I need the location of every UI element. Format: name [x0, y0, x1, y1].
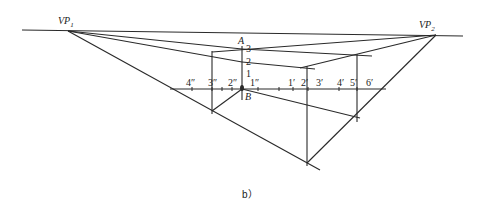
- tick-4pp: 4″: [186, 78, 195, 88]
- vp1-line-long: [68, 31, 320, 170]
- tick-4p: 4′: [337, 78, 344, 88]
- tick-6p: 6′: [366, 78, 373, 88]
- figure-caption: b）: [242, 186, 258, 201]
- perspective-drawing: [0, 0, 481, 205]
- tick-1pp: 1″: [250, 78, 259, 88]
- tick-2p: 2′: [301, 78, 308, 88]
- label-3: 3: [246, 44, 251, 54]
- tick-5p: 5′: [350, 78, 357, 88]
- label-b: B: [245, 92, 251, 102]
- tick-1p: 1′: [288, 78, 295, 88]
- tick-3p: 3′: [316, 78, 323, 88]
- tick-2pp: 2″: [228, 78, 237, 88]
- b-to-left: [212, 89, 242, 111]
- line-2-right: [242, 62, 315, 69]
- b-to-right: [242, 89, 360, 118]
- line-3-right: [242, 49, 372, 56]
- label-2: 2: [246, 57, 251, 67]
- label-a: A: [238, 36, 244, 46]
- vp1-label: VP1: [58, 16, 74, 29]
- tick-3pp: 3″: [208, 78, 217, 88]
- vp2-label: VP2: [419, 20, 435, 33]
- vp2-line-long: [307, 35, 436, 163]
